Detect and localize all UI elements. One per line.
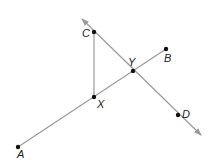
point-d [176,113,180,117]
point-c [92,30,96,34]
point-y [131,69,135,73]
geometry-diagram: ABCDXY [0,0,212,165]
point-label-d: D [182,108,190,120]
point-label-y: Y [128,56,136,68]
point-label-c: C [82,27,90,39]
point-label-b: B [164,52,171,64]
points-layer [16,30,180,149]
point-label-a: A [16,148,24,160]
point-label-x: X [96,98,105,110]
segment-ab [18,49,166,147]
point-x [92,95,96,99]
labels-layer: ABCDXY [16,27,190,160]
lines-layer [18,19,201,147]
point-b [164,47,168,51]
